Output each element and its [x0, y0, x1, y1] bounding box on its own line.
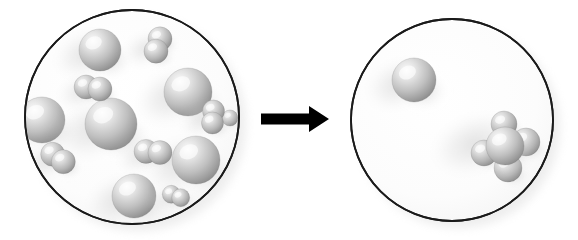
atom-body: [144, 39, 168, 63]
atom-body: [88, 77, 112, 101]
reaction-diagram: [0, 0, 578, 240]
atom-body: [201, 112, 223, 134]
atom-body: [486, 127, 524, 165]
diagram-canvas: [0, 0, 578, 240]
arrow-layer: [261, 106, 329, 132]
atom-body: [172, 189, 190, 207]
arrow-icon: [261, 106, 329, 132]
vessel-products: [351, 19, 560, 228]
atom-body: [148, 141, 172, 165]
atom-body: [79, 29, 121, 71]
atom-body: [112, 174, 156, 218]
vessel-reactants: [0, 10, 246, 240]
atom-body: [51, 150, 75, 174]
atom-body: [172, 136, 220, 184]
vessels-layer: [0, 10, 560, 240]
atom-body: [85, 98, 137, 150]
atom-body: [392, 58, 436, 102]
reaction-arrow: [261, 106, 329, 132]
